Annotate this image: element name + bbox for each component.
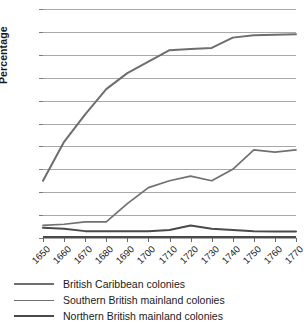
series-line — [43, 34, 296, 181]
legend-label: Northern British mainland colonies — [63, 311, 223, 322]
x-tick-mark — [148, 238, 149, 242]
x-tick-label: 1750 — [239, 244, 263, 268]
x-tick-label: 1670 — [70, 244, 94, 268]
legend-label: Southern British mainland colonies — [63, 295, 225, 306]
x-tick-label: 1680 — [91, 244, 115, 268]
x-tick-label: 1700 — [133, 244, 157, 268]
x-tick-label: 1740 — [218, 244, 242, 268]
x-tick-label: 1650 — [28, 244, 52, 268]
x-tick-mark — [85, 238, 86, 242]
x-tick-label: 1730 — [197, 244, 221, 268]
y-axis-title: Percentage — [0, 26, 9, 84]
x-tick-label: 1760 — [260, 244, 284, 268]
legend-line-swatch — [14, 300, 54, 301]
x-tick-label: 1710 — [155, 244, 179, 268]
series-line — [43, 150, 296, 226]
x-tick-mark — [64, 238, 65, 242]
legend-item: British Caribbean colonies — [14, 276, 304, 292]
x-tick-mark — [233, 238, 234, 242]
x-tick-mark — [106, 238, 107, 242]
series-line — [43, 225, 296, 231]
x-tick-mark — [296, 238, 297, 242]
x-tick-mark — [127, 238, 128, 242]
legend-line-swatch — [14, 283, 54, 285]
x-tick-mark — [254, 238, 255, 242]
x-tick-label: 1690 — [112, 244, 136, 268]
plot-area: 0102030405060708090100 16501660167016801… — [43, 9, 296, 238]
x-tick-mark — [170, 238, 171, 242]
legend-line-swatch — [14, 315, 54, 317]
x-tick-mark — [212, 238, 213, 242]
chart-legend: British Caribbean coloniesSouthern Briti… — [14, 276, 304, 324]
legend-label: British Caribbean colonies — [63, 279, 185, 290]
legend-item: Northern British mainland colonies — [14, 308, 304, 324]
x-tick-label: 1720 — [176, 244, 200, 268]
x-tick-label: 1770 — [281, 244, 305, 268]
chart-figure: Percentage 0102030405060708090100 165016… — [0, 0, 306, 325]
x-tick-label: 1660 — [49, 244, 73, 268]
x-tick-mark — [275, 238, 276, 242]
legend-item: Southern British mainland colonies — [14, 292, 304, 308]
x-tick-mark — [43, 238, 44, 242]
series-lines — [43, 9, 296, 238]
x-tick-mark — [191, 238, 192, 242]
